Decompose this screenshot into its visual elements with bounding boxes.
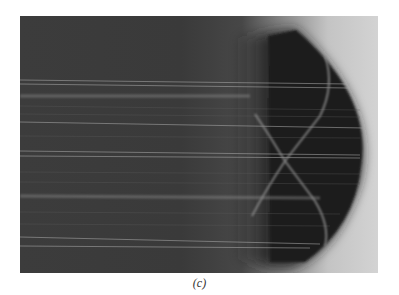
lens-photograph [20,16,378,273]
figure-caption: (c) [0,276,399,291]
lens-ray-illustration [20,16,378,273]
